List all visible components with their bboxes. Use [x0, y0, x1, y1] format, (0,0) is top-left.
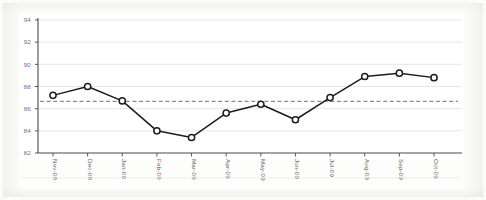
data-point-marker[interactable] [292, 117, 298, 123]
data-point-marker[interactable] [396, 70, 402, 76]
data-point-marker[interactable] [223, 110, 229, 116]
x-tick-label: Jul-09 [329, 159, 336, 177]
x-tick-label: Dec-08 [87, 159, 94, 181]
data-point-marker[interactable] [154, 128, 160, 134]
y-tick-label: 94 [24, 16, 32, 23]
y-tick-label: 84 [24, 127, 32, 134]
y-tick-label: 90 [24, 61, 32, 68]
x-tick-label: Apr-09 [225, 159, 232, 179]
data-point-marker[interactable] [327, 94, 333, 100]
line-chart: 82848688909294 Nov-08Dec-08Jan-09Feb-09M… [0, 0, 486, 200]
y-tick-label: 82 [24, 149, 32, 156]
x-tick-label: Aug-09 [364, 159, 371, 181]
chart-container: 82848688909294 Nov-08Dec-08Jan-09Feb-09M… [0, 0, 486, 200]
x-tick-label: Mar-09 [191, 159, 198, 180]
x-tick-label: Nov-08 [52, 159, 59, 181]
data-point-marker[interactable] [50, 92, 56, 98]
data-point-markers-group [50, 70, 437, 140]
x-tick-label: Feb-09 [156, 159, 163, 180]
y-tick-label: 92 [24, 38, 32, 45]
data-point-marker[interactable] [85, 83, 91, 89]
x-tick-label: Sep-09 [398, 159, 405, 181]
x-tick-label: Jun-09 [294, 159, 301, 179]
x-tick-label: Jan-09 [121, 159, 128, 179]
series-line-value [53, 73, 434, 137]
yaxis-tick-labels-group: 82848688909294 [24, 16, 32, 156]
y-tick-label: 88 [24, 83, 32, 90]
data-point-marker[interactable] [119, 98, 125, 104]
data-point-marker[interactable] [362, 73, 368, 79]
x-tick-label: Oct-09 [433, 159, 440, 179]
data-point-marker[interactable] [188, 134, 194, 140]
y-tick-label: 86 [24, 105, 32, 112]
data-point-marker[interactable] [258, 101, 264, 107]
data-point-marker[interactable] [431, 75, 437, 81]
